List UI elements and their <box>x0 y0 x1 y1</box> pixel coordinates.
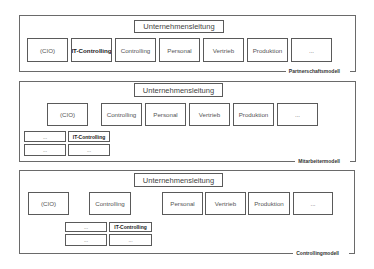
unit-more: ... <box>277 103 318 126</box>
model-label: Controllingmodell <box>293 250 350 257</box>
unit-cio: (CIO) <box>27 38 68 62</box>
sub-unit-more: ... <box>109 234 152 246</box>
model-label: Partnerschaftsmodell <box>286 68 351 75</box>
sub-unit-it-controlling: IT-Controlling <box>68 131 110 142</box>
sub-unit-more: ... <box>65 222 107 232</box>
unternehmensleitung-box: Unternehmensleitung <box>134 173 223 187</box>
unit-vertrieb: Vertrieb <box>205 192 246 215</box>
unit-controlling: Controlling <box>101 103 142 126</box>
sub-unit-it-controlling: IT-Controlling <box>109 222 152 232</box>
sub-unit-more: ... <box>24 144 66 156</box>
unit-more: ... <box>293 192 333 215</box>
sub-unit-more: ... <box>68 144 110 156</box>
unit-produktion: Produktion <box>233 103 274 126</box>
sub-unit-more: ... <box>65 234 107 246</box>
unit-personal: Personal <box>159 38 200 62</box>
sub-unit-more: ... <box>24 131 66 142</box>
unit-it-controlling: IT-Controlling <box>71 38 112 62</box>
unit-produktion: Produktion <box>247 38 288 62</box>
unit-controlling: Controlling <box>89 192 131 215</box>
unit-produktion: Produktion <box>248 192 290 215</box>
model-label: Mitarbeitermodell <box>295 158 351 165</box>
unit-vertrieb: Vertrieb <box>203 38 244 62</box>
unit-more: ... <box>291 38 332 62</box>
unternehmensleitung-box: Unternehmensleitung <box>134 20 224 33</box>
unit-cio: (CIO) <box>28 192 69 215</box>
unternehmensleitung-box: Unternehmensleitung <box>134 83 223 97</box>
unit-vertrieb: Vertrieb <box>189 103 230 126</box>
unit-personal: Personal <box>145 103 186 126</box>
unit-cio: (CIO) <box>47 103 88 126</box>
unit-controlling: Controlling <box>115 38 156 62</box>
unit-personal: Personal <box>162 192 203 215</box>
